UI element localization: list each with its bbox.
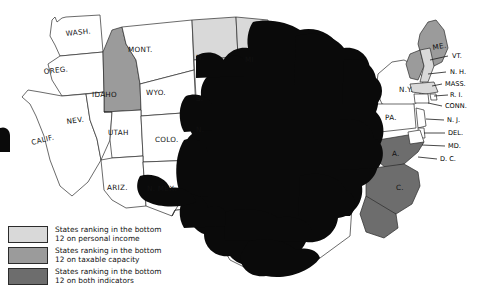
map-figure: WASH.OREG.IDAHOMONT.WYO.NEV.CALIF.UTAHCO… bbox=[0, 0, 479, 304]
state-connecticut bbox=[414, 94, 429, 103]
state-label-mass: MASS. bbox=[445, 80, 466, 88]
state-label-colo: COLO. bbox=[155, 135, 179, 144]
state-label-carolina: C. bbox=[396, 183, 404, 192]
state-label-va: A. bbox=[392, 149, 400, 158]
state-label-ndak: N. bbox=[196, 53, 204, 62]
state-label-dc: D. C. bbox=[440, 155, 456, 163]
legend-swatch-personal-income bbox=[8, 226, 48, 243]
state-label-ny: N.Y. bbox=[399, 85, 413, 94]
legend-label-personal-income: States ranking in the bottom 12 on perso… bbox=[55, 226, 161, 243]
state-label-nj: N. J. bbox=[447, 116, 460, 124]
legend-entry-both-indicators: States ranking in the bottom 12 on both … bbox=[8, 268, 161, 285]
legend-entry-taxable-capacity: States ranking in the bottom 12 on taxab… bbox=[8, 247, 161, 264]
state-label-vt: VT. bbox=[452, 52, 462, 60]
state-label-mont: MONT. bbox=[128, 45, 153, 54]
state-label-pa: PA. bbox=[385, 113, 397, 122]
legend-entry-personal-income: States ranking in the bottom 12 on perso… bbox=[8, 226, 161, 243]
state-label-minn: MI bbox=[245, 55, 254, 64]
state-label-wyo: WYO. bbox=[146, 88, 166, 97]
state-label-nh: N. H. bbox=[450, 68, 466, 76]
legend-swatch-both-indicators bbox=[8, 268, 48, 285]
state-label-nmex: N. MEX. bbox=[147, 184, 177, 193]
state-label-md: MD. bbox=[448, 142, 461, 150]
state-label-idaho: IDAHO bbox=[92, 90, 117, 99]
legend-label-both-indicators: States ranking in the bottom 12 on both … bbox=[55, 268, 161, 285]
state-label-ariz: ARIZ. bbox=[107, 183, 128, 192]
state-label-utah: UTAH bbox=[108, 128, 129, 137]
state-label-conn: CONN. bbox=[445, 102, 467, 110]
state-label-sdak: S. bbox=[196, 94, 203, 103]
state-label-del: DEL. bbox=[448, 129, 463, 137]
state-label-nebr: N. bbox=[196, 125, 204, 134]
legend-label-taxable-capacity: States ranking in the bottom 12 on taxab… bbox=[55, 247, 161, 264]
map-legend: States ranking in the bottom 12 on perso… bbox=[8, 226, 161, 290]
state-rhode-island bbox=[430, 94, 437, 100]
legend-swatch-taxable-capacity bbox=[8, 247, 48, 264]
state-new-jersey bbox=[416, 108, 426, 128]
state-label-ri: R. I. bbox=[450, 91, 463, 99]
legend-line-2: 12 on personal income bbox=[55, 235, 161, 244]
legend-line-2: 12 on both indicators bbox=[55, 277, 161, 286]
state-massachusetts bbox=[410, 82, 438, 94]
legend-line-2: 12 on taxable capacity bbox=[55, 256, 161, 265]
